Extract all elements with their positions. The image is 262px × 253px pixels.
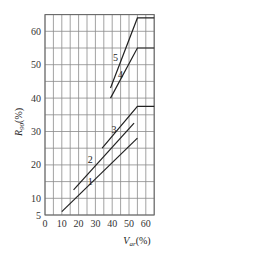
y-tick-label: 10 xyxy=(31,193,41,204)
y-tick-label: 30 xyxy=(31,126,41,137)
y-tick-label: 20 xyxy=(31,159,41,170)
chart: 0102030405060 5102030405060 12345 Var(%)… xyxy=(0,0,262,253)
y-tick-label: 60 xyxy=(31,26,41,37)
y-axis-ticks: 5102030405060 xyxy=(31,26,41,221)
curve-3 xyxy=(102,106,154,148)
x-tick-label: 10 xyxy=(57,218,67,229)
grid xyxy=(45,15,154,215)
x-tick-label: 30 xyxy=(90,218,100,229)
y-tick-label: 5 xyxy=(36,210,41,221)
y-axis-label: R90(%) xyxy=(13,108,26,137)
x-tick-label: 50 xyxy=(124,218,134,229)
curve-label-5: 5 xyxy=(113,52,118,63)
curve-label-2: 2 xyxy=(88,154,93,165)
x-tick-label: 40 xyxy=(107,218,117,229)
curve-label-1: 1 xyxy=(88,176,93,187)
x-axis-ticks: 0102030405060 xyxy=(43,218,151,229)
curve-label-3: 3 xyxy=(111,124,116,135)
x-tick-label: 20 xyxy=(74,218,84,229)
x-tick-label: 0 xyxy=(43,218,48,229)
curve-label-4: 4 xyxy=(118,69,123,80)
x-tick-label: 60 xyxy=(141,218,151,229)
y-tick-label: 40 xyxy=(31,93,41,104)
y-tick-label: 50 xyxy=(31,59,41,70)
curve-labels: 12345 xyxy=(88,52,123,187)
x-axis-label: Var(%) xyxy=(123,235,150,248)
curve-1 xyxy=(62,138,138,211)
